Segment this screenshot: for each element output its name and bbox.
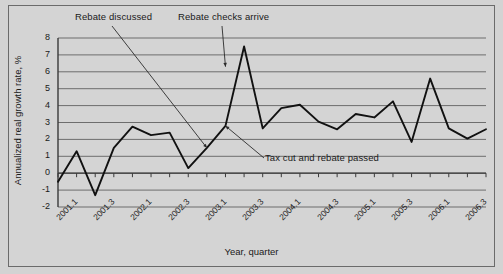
annotation-tax-cut-and-rebate-passed: Tax cut and rebate passed [265, 152, 379, 163]
y-tick-label: 2 [28, 133, 50, 143]
y-tick-label: 1 [28, 150, 50, 160]
line-chart-plot [0, 0, 503, 274]
y-tick-label: 6 [28, 66, 50, 76]
annotation-leader-lines [112, 26, 264, 158]
gridlines [58, 38, 486, 207]
y-tick-label: -1 [28, 184, 50, 194]
x-axis-title: Year, quarter [0, 246, 503, 257]
y-tick-label: 0 [28, 167, 50, 177]
y-axis-title: Annualized real growth rate, % [12, 41, 23, 201]
annotation-rebate-discussed: Rebate discussed [75, 11, 152, 22]
y-tick-label: -2 [28, 201, 50, 211]
y-tick-label: 7 [28, 49, 50, 59]
x-tick-marks [58, 173, 486, 177]
figure: Annualized real growth rate, % Year, qua… [0, 0, 503, 274]
y-tick-label: 4 [28, 100, 50, 110]
y-tick-label: 5 [28, 83, 50, 93]
y-tick-label: 3 [28, 117, 50, 127]
y-tick-label: 8 [28, 32, 50, 42]
annotation-rebate-checks-arrive: Rebate checks arrive [178, 11, 269, 22]
